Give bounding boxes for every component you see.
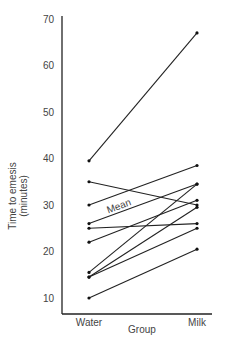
paired-line-chart: 10203040506070 Mean WaterMilkGroupTime t… [0,0,230,345]
data-point [87,159,90,162]
data-point [87,222,90,225]
y-tick-label: 50 [43,107,55,118]
axis-labels: WaterMilkGroupTime to emesis(minutes) [7,162,207,335]
series-line [89,33,197,161]
series-line [89,249,197,298]
data-point [195,182,198,185]
data-point [195,164,198,167]
data-point [195,227,198,230]
data-point [87,241,90,244]
y-axis-title: Time to emesis [7,162,18,229]
data-point [87,203,90,206]
y-tick-label: 60 [43,60,55,71]
data-point [195,199,198,202]
x-axis-title: Group [128,324,156,335]
y-tick-label: 10 [43,293,55,304]
data-point [195,222,198,225]
data-point [87,271,90,274]
y-tick-label: 20 [43,246,55,257]
data-point [87,296,90,299]
data-lines: Mean [87,31,198,299]
y-axis-title: (minutes) [18,175,29,217]
x-tick-label: Milk [188,317,207,328]
y-tick-label: 70 [43,14,55,25]
y-tick-label: 30 [43,200,55,211]
data-point [87,227,90,230]
data-point [195,248,198,251]
data-point [87,180,90,183]
data-point [87,275,90,278]
axes: 10203040506070 [43,14,212,315]
y-tick-label: 40 [43,153,55,164]
data-point [195,206,198,209]
series-line [89,184,197,272]
data-point [195,31,198,34]
x-tick-label: Water [76,317,103,328]
